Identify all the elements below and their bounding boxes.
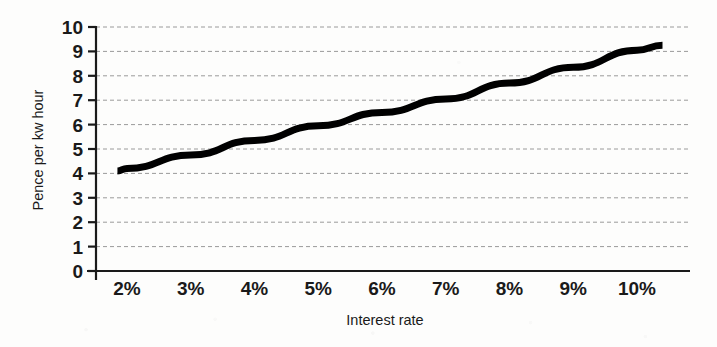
x-tick-label-10pct: 10% bbox=[618, 278, 656, 299]
series-line-0 bbox=[117, 45, 662, 171]
x-tick-label-3pct: 3% bbox=[177, 278, 205, 299]
chart-container: 012345678910 2%3%4%5%6%7%8%9%10% Interes… bbox=[0, 0, 717, 347]
y-axis-title: Pence per kw hour bbox=[30, 89, 46, 210]
y-tick-label-3: 3 bbox=[72, 188, 83, 209]
x-tick-label-2pct: 2% bbox=[113, 278, 141, 299]
y-tick-label-7: 7 bbox=[72, 90, 83, 111]
y-axis-ticks: 012345678910 bbox=[62, 17, 96, 282]
y-tick-label-6: 6 bbox=[72, 115, 83, 136]
y-tick-label-8: 8 bbox=[72, 66, 83, 87]
y-tick-label-0: 0 bbox=[72, 261, 83, 282]
y-tick-label-1: 1 bbox=[72, 237, 83, 258]
y-tick-label-10: 10 bbox=[62, 17, 83, 38]
y-tick-label-5: 5 bbox=[72, 139, 83, 160]
x-tick-label-4pct: 4% bbox=[241, 278, 269, 299]
x-axis-ticks: 2%3%4%5%6%7%8%9%10% bbox=[113, 278, 656, 299]
y-tick-label-4: 4 bbox=[72, 163, 83, 184]
y-tick-label-2: 2 bbox=[72, 212, 83, 233]
x-tick-label-6pct: 6% bbox=[368, 278, 396, 299]
y-tick-label-9: 9 bbox=[72, 41, 83, 62]
x-tick-label-7pct: 7% bbox=[432, 278, 460, 299]
x-tick-label-8pct: 8% bbox=[496, 278, 524, 299]
x-tick-label-9pct: 9% bbox=[560, 278, 588, 299]
data-series-group bbox=[117, 45, 662, 171]
x-axis-title: Interest rate bbox=[346, 312, 423, 328]
x-tick-label-5pct: 5% bbox=[305, 278, 333, 299]
line-chart-plot: 012345678910 2%3%4%5%6%7%8%9%10% Interes… bbox=[0, 0, 717, 347]
